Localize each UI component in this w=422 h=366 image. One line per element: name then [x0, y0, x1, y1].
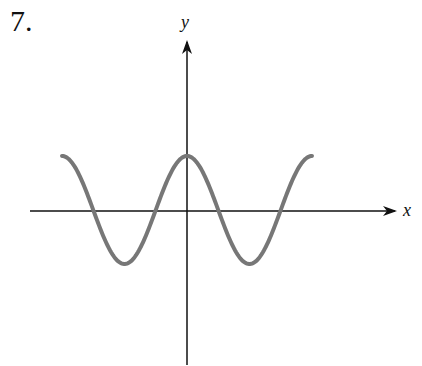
cosine-graph: y x — [0, 0, 422, 366]
y-axis-label: y — [179, 12, 189, 32]
x-axis-label: x — [402, 200, 411, 220]
